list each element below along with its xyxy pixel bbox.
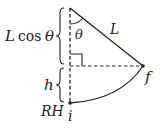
label-reference-rh: RH <box>40 103 65 119</box>
angle-arc <box>70 18 83 24</box>
right-angle-marker <box>70 54 82 66</box>
label-l-vertical: L <box>4 27 15 45</box>
label-string-l: L <box>109 21 119 37</box>
label-theta-vertical: θ <box>45 27 54 45</box>
pendulum-diagram: L cos θ θ L h RH i f <box>0 0 161 129</box>
label-cos: cos <box>18 28 41 44</box>
label-initial-i: i <box>68 108 72 124</box>
label-final-f: f <box>144 68 153 86</box>
swing-arc <box>70 66 143 103</box>
label-height-h: h <box>44 76 54 94</box>
label-angle-theta: θ <box>75 27 83 42</box>
lower-brace <box>56 68 64 102</box>
upper-brace <box>56 8 64 64</box>
initial-point-dot <box>68 101 72 105</box>
